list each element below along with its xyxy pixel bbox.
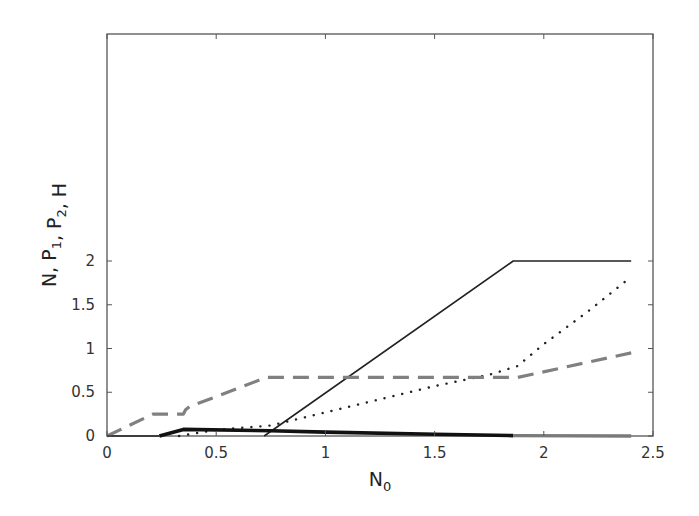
y-tick-label: 0 [85, 427, 95, 445]
x-tick-label: 0.5 [204, 444, 228, 462]
x-tick-label: 2 [539, 444, 549, 462]
y-axis-ticks: 00.511.52 [71, 252, 653, 445]
x-tick-label: 0 [102, 444, 112, 462]
series-line [107, 353, 631, 436]
x-tick-label: 2.5 [641, 444, 665, 462]
plot-area-frame [107, 34, 653, 436]
series-line [264, 261, 631, 436]
y-tick-label: 2 [85, 252, 95, 270]
x-tick-label: 1 [321, 444, 331, 462]
y-axis-label: N, P1, P2, H [38, 183, 70, 287]
series-line [159, 429, 513, 436]
y-tick-label: 1.5 [71, 296, 95, 314]
y-tick-label: 1 [85, 340, 95, 358]
y-tick-label: 0.5 [71, 383, 95, 401]
line-chart: 00.511.522.5 00.511.52 N0 N, P1, P2, H [0, 0, 699, 516]
series-layer [107, 261, 631, 436]
x-axis-label: N0 [369, 468, 392, 494]
series-line [179, 277, 631, 436]
x-tick-label: 1.5 [423, 444, 447, 462]
